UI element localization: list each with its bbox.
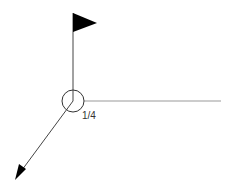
size-label: 1/4	[82, 111, 96, 121]
diagonal-line	[22, 101, 73, 170]
diagram-svg	[0, 0, 231, 190]
flag-icon	[73, 13, 97, 32]
diagram-canvas: 1/4	[0, 0, 231, 190]
